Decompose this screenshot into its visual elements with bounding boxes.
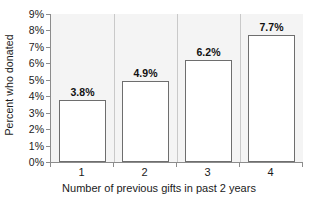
y-axis-tick-label: 3% <box>29 107 44 119</box>
bar-value-label: 7.7% <box>260 21 284 33</box>
x-axis-tick-label: 2 <box>141 166 147 178</box>
plot-area: 3.8%4.9%6.2%7.7% <box>50 14 303 163</box>
y-axis-tick-label: 5% <box>29 74 44 86</box>
bar <box>185 60 232 162</box>
bar-group: 4.9% <box>122 14 169 162</box>
bar-value-label: 6.2% <box>197 46 221 58</box>
bar-group: 7.7% <box>248 14 295 162</box>
bar <box>59 100 106 162</box>
bar <box>122 81 169 162</box>
bars-layer: 3.8%4.9%6.2%7.7% <box>51 14 303 162</box>
x-axis-tick-labels: 1234 <box>50 166 302 182</box>
x-axis-tick-label: 3 <box>204 166 210 178</box>
y-axis-tick-labels: 0%1%2%3%4%5%6%7%8%9% <box>18 8 46 163</box>
bar-group: 3.8% <box>59 14 106 162</box>
bar <box>248 35 295 162</box>
y-axis-tick-label: 9% <box>29 8 44 20</box>
y-axis-tick-label: 8% <box>29 24 44 36</box>
y-axis-tick-label: 6% <box>29 57 44 69</box>
y-axis-tick-label: 0% <box>29 156 44 168</box>
bar-value-label: 3.8% <box>71 86 95 98</box>
y-axis-title-label: Percent who donated <box>3 34 15 135</box>
bar-chart: Percent who donated 0%1%2%3%4%5%6%7%8%9%… <box>0 0 318 201</box>
y-axis-tick-label: 1% <box>29 140 44 152</box>
x-axis-tick-mark <box>302 163 303 167</box>
bar-value-label: 4.9% <box>134 67 158 79</box>
y-axis-title: Percent who donated <box>0 0 18 170</box>
y-axis-tick-label: 7% <box>29 41 44 53</box>
y-axis-tick-label: 2% <box>29 123 44 135</box>
bar-group: 6.2% <box>185 14 232 162</box>
y-axis-tick-label: 4% <box>29 90 44 102</box>
x-axis-tick-label: 1 <box>78 166 84 178</box>
x-axis-title: Number of previous gifts in past 2 years <box>0 182 318 194</box>
x-axis-tick-label: 4 <box>267 166 273 178</box>
